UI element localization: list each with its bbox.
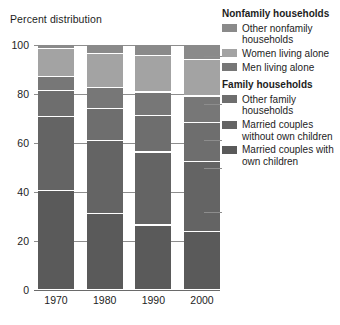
bar-segment[interactable]	[135, 153, 171, 225]
bar-segment[interactable]	[184, 60, 220, 95]
bar-segment[interactable]	[87, 54, 123, 87]
bar-1970[interactable]	[38, 45, 74, 290]
bar-segment[interactable]	[38, 191, 74, 288]
legend-group-heading: Family households	[222, 79, 340, 91]
legend-swatch-icon	[222, 63, 237, 71]
legend-leader-line-3	[204, 140, 222, 141]
x-tick-label-1980: 1980	[77, 294, 133, 306]
legend-swatch-icon	[222, 95, 237, 103]
legend-leader-line-2	[204, 104, 222, 105]
legend-item[interactable]: Other nonfamily households	[222, 23, 340, 46]
legend-item[interactable]: Women living alone	[222, 48, 340, 59]
bar-segment[interactable]	[87, 214, 123, 288]
x-tick-label-1970: 1970	[28, 294, 84, 306]
legend-item[interactable]: Men living alone	[222, 62, 340, 73]
bar-segment[interactable]	[38, 77, 74, 89]
bar-segment[interactable]	[87, 45, 123, 53]
bar-segment[interactable]	[135, 56, 171, 91]
bar-1990[interactable]	[135, 45, 171, 290]
legend-item-label: Other nonfamily households	[242, 23, 340, 46]
legend-item[interactable]: Other family households	[222, 94, 340, 117]
y-tick-label-60: 60	[17, 137, 29, 149]
chart-axis-title: Percent distribution	[10, 13, 102, 25]
bar-segment[interactable]	[135, 116, 171, 151]
legend-item[interactable]: Married couples without own children	[222, 119, 340, 142]
legend-item-label: Married couples without own children	[242, 119, 340, 142]
bar-series-group	[38, 45, 220, 290]
legend-item-label: Other family households	[242, 94, 340, 117]
legend-swatch-icon	[222, 121, 237, 129]
bar-segment[interactable]	[184, 123, 220, 161]
bar-segment[interactable]	[184, 232, 220, 288]
legend-item-label: Women living alone	[242, 48, 340, 59]
bar-segment[interactable]	[38, 45, 74, 48]
bar-1980[interactable]	[87, 45, 123, 290]
legend-leader-line-1	[204, 56, 222, 57]
bar-segment[interactable]	[135, 226, 171, 289]
legend-group-1: Nonfamily householdsOther nonfamily hous…	[222, 8, 340, 73]
x-tick-label-1990: 1990	[125, 294, 181, 306]
chart-container: Percent distribution 020406080100 197019…	[0, 0, 340, 325]
legend-item[interactable]: Married couples with own children	[222, 144, 340, 167]
axis-baseline	[34, 290, 220, 291]
y-tick-label-100: 100	[11, 39, 29, 51]
y-tick-label-40: 40	[17, 186, 29, 198]
bar-segment[interactable]	[38, 49, 74, 76]
bar-segment[interactable]	[135, 45, 171, 55]
plot-area: 020406080100 1970198019902000	[38, 45, 220, 290]
y-tick-label-80: 80	[17, 88, 29, 100]
legend-group-2: Family householdsOther family households…	[222, 79, 340, 167]
bar-segment[interactable]	[87, 109, 123, 139]
legend-leader-line-5	[204, 212, 222, 213]
legend-swatch-icon	[222, 24, 237, 32]
legend-item-label: Men living alone	[242, 62, 340, 73]
legend-leader-line-4	[204, 168, 222, 169]
legend-swatch-icon	[222, 146, 237, 154]
bar-segment[interactable]	[87, 141, 123, 213]
bar-segment[interactable]	[184, 162, 220, 231]
legend-item-label: Married couples with own children	[242, 144, 340, 167]
bar-segment[interactable]	[38, 91, 74, 116]
bar-segment[interactable]	[184, 97, 220, 122]
bar-segment[interactable]	[135, 93, 171, 115]
bar-segment[interactable]	[38, 117, 74, 190]
bar-segment[interactable]	[87, 88, 123, 108]
legend-swatch-icon	[222, 49, 237, 57]
y-tick-label-20: 20	[17, 235, 29, 247]
chart-legend: Nonfamily householdsOther nonfamily hous…	[222, 8, 340, 173]
x-tick-label-2000: 2000	[174, 294, 230, 306]
legend-group-heading: Nonfamily households	[222, 8, 340, 20]
